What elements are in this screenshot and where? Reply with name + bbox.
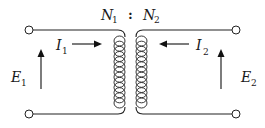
i1-symbol: I: [55, 37, 62, 53]
e2-arrow-head-icon: [218, 49, 225, 57]
secondary-voltage: E 2: [218, 49, 257, 89]
primary-wires: [33, 30, 125, 114]
primary-current: I 1: [55, 37, 102, 56]
primary-top-terminal[interactable]: [25, 26, 33, 34]
i2-symbol: I: [195, 37, 202, 53]
primary-bottom-terminal[interactable]: [25, 110, 33, 118]
i1-subscript: 1: [62, 46, 68, 56]
primary-coil: [114, 36, 125, 108]
primary-bottom-wire: [33, 107, 125, 114]
n2-subscript: 2: [154, 15, 160, 25]
n1-subscript: 1: [112, 15, 118, 25]
e1-symbol: E: [10, 69, 21, 85]
e1-subscript: 1: [21, 78, 27, 88]
primary-top-wire: [33, 30, 125, 37]
i2-subscript: 2: [203, 47, 209, 57]
i1-arrow-head-icon: [94, 41, 102, 48]
e2-symbol: E: [240, 69, 251, 85]
ratio-separator: :: [128, 7, 133, 22]
primary-voltage: E 1: [10, 49, 45, 89]
i2-arrow-head-icon: [159, 41, 167, 48]
e2-subscript: 2: [251, 78, 257, 88]
secondary-coil: [136, 36, 147, 108]
secondary-top-terminal[interactable]: [232, 26, 240, 34]
secondary-wires: [136, 30, 232, 114]
turns-ratio-label: N 1 : N 2: [100, 7, 160, 25]
secondary-bottom-terminal[interactable]: [232, 110, 240, 118]
secondary-current: I 2: [159, 37, 209, 57]
secondary-top-wire: [136, 30, 232, 37]
e1-arrow-head-icon: [38, 49, 45, 57]
secondary-bottom-wire: [136, 107, 232, 114]
transformer-diagram: N 1 : N 2 I 1 I 2 E 1: [0, 0, 265, 128]
